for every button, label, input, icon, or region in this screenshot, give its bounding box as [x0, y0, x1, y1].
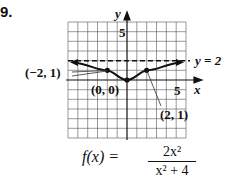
x-tick-label: 5 [174, 84, 181, 97]
function-formula-fraction: 2x² x² + 4 [148, 144, 196, 178]
y-axis-label: y [115, 7, 121, 20]
formula-denominator: x² + 4 [148, 163, 196, 178]
asymptote-label: y = 2 [195, 54, 221, 67]
formula-numerator: 2x² [148, 144, 196, 160]
y-tick-label: 5 [119, 26, 126, 39]
point-label-neg2-1: (−2, 1) [25, 66, 61, 79]
y-axis-arrow-icon [124, 12, 130, 20]
x-axis-label: x [194, 83, 201, 96]
fraction-bar [148, 161, 196, 162]
point-label-0-0: (0, 0) [91, 83, 119, 96]
point-2-1 [144, 68, 149, 73]
point-label-2-1: (2, 1) [160, 108, 188, 121]
function-formula-lhs: f(x) = [82, 148, 119, 166]
point-0-0 [124, 77, 129, 82]
